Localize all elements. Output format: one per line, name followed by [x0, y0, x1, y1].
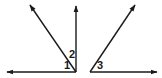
right-figure: 3 [90, 5, 157, 72]
angle-3-label: 3 [97, 59, 103, 71]
angle-1-label: 1 [64, 59, 70, 71]
left-figure: 1 2 [7, 5, 76, 72]
angle-diagram: 1 2 3 [0, 0, 162, 78]
angle-2-label: 2 [69, 48, 75, 60]
